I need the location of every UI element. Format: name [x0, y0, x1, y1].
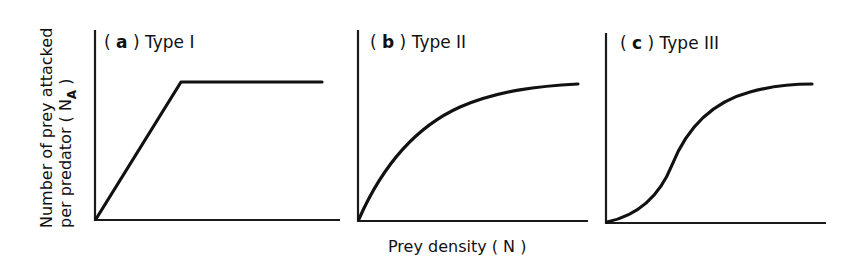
- x-axis-label: Prey density ( N ): [388, 237, 526, 256]
- panel-b-curve: [359, 84, 578, 219]
- panel-c-title: ( c ) Type III: [620, 33, 719, 53]
- y-axis-label-line2: per predator ( NA ): [56, 79, 79, 229]
- panel-b-title: ( b ) Type II: [370, 32, 466, 52]
- functional-response-figure: Number of prey attacked per predator ( N…: [0, 0, 850, 264]
- y-axis-label-line1: Number of prey attacked: [37, 28, 56, 228]
- y-axis-label: Number of prey attacked per predator ( N…: [37, 28, 79, 228]
- panel-c-curve: [607, 84, 812, 222]
- panel-a-curve: [96, 82, 322, 219]
- panel-a: ( a ) Type I: [95, 30, 340, 221]
- panel-b: ( b ) Type II Prey density ( N ): [358, 30, 588, 256]
- panel-c: ( c ) Type III: [606, 33, 826, 224]
- panel-a-title: ( a ) Type I: [104, 32, 194, 52]
